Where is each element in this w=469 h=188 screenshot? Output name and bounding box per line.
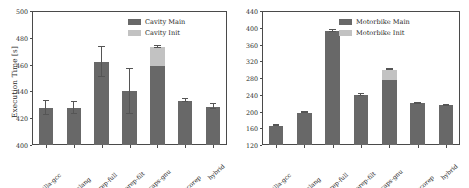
bar-segment-main [178,101,192,145]
legend-item: Motorbike Init [339,29,410,37]
x-tick-mark [74,145,75,148]
bar-segment-main [269,126,284,145]
y-tick-mark [30,91,33,92]
error-bar-cap [182,98,188,99]
bar-vanilla-gcc [39,11,53,145]
error-bar-cap [43,114,49,115]
bar-scorep-full [94,11,108,145]
bar-vanilla-clang [67,11,81,145]
x-tick-label-vanilla-clang: vanilla-clang [58,175,92,188]
bar-segment-main [206,107,220,145]
y-tick-mark [260,78,263,79]
bar-segment-main [297,113,312,145]
legend-swatch-init [128,30,141,36]
error-bar-cap [154,45,160,46]
x-tick-mark [446,145,447,148]
bar-segment-init [382,70,397,80]
error-bar-cap [358,95,364,96]
y-tick-mark [30,118,33,119]
legend-swatch-main [128,19,141,25]
error-bar-cap [301,111,307,112]
error-bar-cap [71,101,77,102]
x-tick-mark [333,145,334,148]
y-tick-label: 120 [235,142,258,149]
x-tick-mark [418,145,419,148]
y-tick-label: 500 [0,8,28,15]
legend-item: Cavity Main [128,18,185,26]
x-tick-mark [304,145,305,148]
y-tick-label: 280 [235,75,258,82]
legend-item: Motorbike Main [339,18,410,26]
x-tick-label-hybrid: hybrid [206,162,226,181]
error-bar [129,69,130,113]
y-tick-mark [260,45,263,46]
legend-swatch-init [339,30,352,36]
error-bar-cap [301,112,307,113]
error-bar-cap [443,105,449,106]
x-tick-label-caps-scorep: caps-scorep [403,174,435,188]
panel-cavity: Execution Time [s] 400420440460480500 va… [0,0,235,188]
error-bar-cap [329,31,335,32]
y-tick-label: 200 [235,108,258,115]
x-tick-mark [102,145,103,148]
error-bar-cap [182,101,188,102]
error-bar-cap [126,68,132,69]
y-tick-mark [30,11,33,12]
y-tick-label: 240 [235,91,258,98]
y-tick-label: 440 [235,8,258,15]
y-tick-mark [260,112,263,113]
x-tick-label-caps-gnu: caps-gnu [147,168,172,188]
bar-scorep-full [325,11,340,145]
bar-vanilla-gcc [269,11,284,145]
x-tick-mark [361,145,362,148]
legend-cavity: Cavity MainCavity Init [128,18,185,37]
bar-segment-main [439,105,454,145]
legend-label: Motorbike Main [356,18,410,26]
y-tick-mark [260,145,263,146]
error-bar-cap [443,104,449,105]
error-bar-cap [386,68,392,69]
x-tick-label-caps-gnu: caps-gnu [379,168,404,188]
error-bar-cap [210,108,216,109]
error-bar-cap [126,113,132,114]
legend-motorbike: Motorbike MainMotorbike Init [339,18,410,37]
x-tick-label-scorep-filt: scorep-filt [117,170,145,188]
error-bar-cap [210,103,216,104]
x-tick-mark [213,145,214,148]
error-bar-cap [154,47,160,48]
y-tick-mark [260,128,263,129]
legend-label: Motorbike Init [356,29,404,37]
x-tick-mark [185,145,186,148]
y-tick-label: 440 [0,88,28,95]
y-tick-label: 460 [0,61,28,68]
y-tick-mark [30,38,33,39]
x-tick-mark [157,145,158,148]
x-tick-mark [389,145,390,148]
y-tick-label: 400 [235,24,258,31]
error-bar-cap [43,100,49,101]
x-tick-mark [46,145,47,148]
bar-segment-init [150,47,164,66]
y-tick-label: 420 [0,115,28,122]
x-tick-mark [276,145,277,148]
error-bar-cap [71,113,77,114]
y-tick-mark [260,61,263,62]
y-tick-label: 160 [235,125,258,132]
error-bar-cap [98,76,104,77]
bar-vanilla-clang [297,11,312,145]
x-tick-label-scorep-filt: scorep-filt [349,170,377,188]
x-tick-label-caps-scorep: caps-scorep [170,174,202,188]
y-tick-label: 360 [235,41,258,48]
error-bar [101,47,102,76]
x-tick-label-hybrid: hybrid [439,162,459,181]
error-bar-cap [414,103,420,104]
bar-hybrid [439,11,454,145]
legend-swatch-main [339,19,352,25]
y-tick-mark [260,95,263,96]
y-tick-label: 320 [235,58,258,65]
y-tick-label: 400 [0,142,28,149]
legend-label: Cavity Main [145,18,185,26]
legend-label: Cavity Init [145,29,180,37]
error-bar-cap [414,102,420,103]
y-tick-label: 480 [0,34,28,41]
